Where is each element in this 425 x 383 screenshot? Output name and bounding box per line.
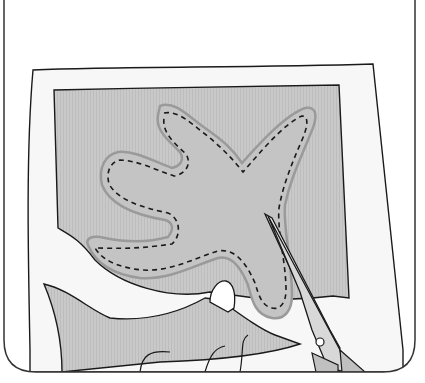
illustration: Cutting out a hand-shaped fabric piece a…: [0, 0, 425, 383]
